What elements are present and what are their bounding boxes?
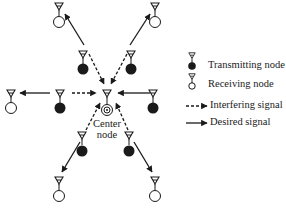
legend-transmitting-label: Transmitting node [208, 59, 285, 71]
center-label-line2: node [87, 129, 127, 140]
legend-transmitting-icon [188, 53, 196, 70]
legend-receiving-label: Receiving node [208, 78, 274, 90]
legend-interfering-label: Interfering signal [210, 99, 283, 111]
receiving-node-top-right [150, 3, 161, 28]
legend-receiving-icon [189, 74, 195, 89]
transmitting-node-left [55, 90, 66, 114]
receiving-node-top-left [54, 3, 65, 28]
center-node [102, 90, 113, 116]
receiving-node-bottom-left [54, 177, 65, 202]
receiving-node-left [6, 90, 17, 114]
center-label-line1: Center [87, 118, 127, 129]
legend-desired-label: Desired signal [210, 116, 270, 128]
transmitting-node-upper-left [78, 51, 89, 75]
receiving-node-bottom-right [150, 177, 161, 202]
center-node-label: Center node [87, 118, 127, 140]
